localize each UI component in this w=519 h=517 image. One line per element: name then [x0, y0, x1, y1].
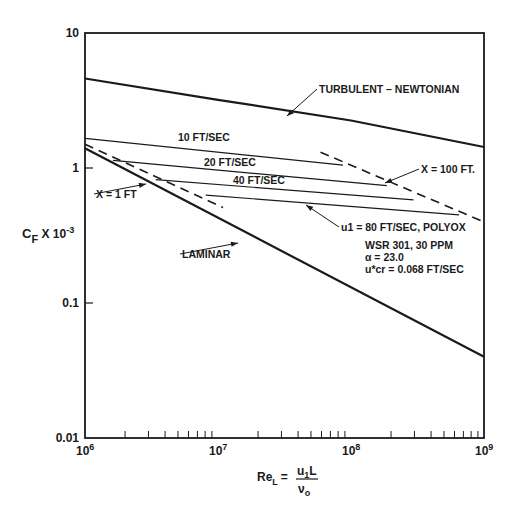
annotation-u-cr-0-068-ft-sec: u*cr = 0.068 FT/SEC [365, 263, 464, 275]
annotation-23-0: α = 23.0 [365, 251, 404, 263]
svg-text:u1L: u1L [297, 464, 317, 480]
y-tick-label: 10 [66, 26, 80, 40]
annotation-wsr-301-30-ppm: WSR 301, 30 PPM [365, 239, 453, 251]
y-tick-label: 1 [72, 161, 79, 175]
arrowhead-icon [231, 242, 238, 247]
series-layer [85, 79, 484, 357]
arrowhead-icon [139, 183, 146, 188]
y-tick-label: 0.01 [56, 431, 80, 445]
annotation-40-ft-sec: 40 FT/SEC [233, 174, 285, 186]
x-axis-title: ReL= u1L νo [257, 464, 318, 498]
series-u1-80-ft-sec-polyox [206, 195, 459, 215]
annotation-layer: TURBULENT – NEWTONIAN10 FT/SEC20 FT/SEC4… [94, 83, 475, 275]
annotation-u1-80-ft-sec-polyox: u1 = 80 FT/SEC, POLYOX [341, 221, 466, 233]
x-axis-ticks: 106107108109 [76, 431, 493, 458]
x-tick-label: 109 [475, 442, 493, 458]
annotation-10-ft-sec: 10 FT/SEC [178, 131, 230, 143]
svg-text:νo: νo [298, 482, 311, 498]
svg-text:ReL=: ReL= [257, 470, 288, 487]
annotation-turbulent-newtonian: TURBULENT – NEWTONIAN [319, 83, 459, 95]
arrowhead-icon [306, 205, 313, 211]
x-tick-label: 108 [342, 442, 360, 458]
annotation-x-100-ft: X = 100 FT. [421, 163, 475, 175]
y-tick-label: 0.1 [62, 296, 79, 310]
y-axis-title: CF X 10-3 [22, 225, 74, 245]
skin-friction-chart: 106107108109 1010.10.01 TURBULENT – NEWT… [0, 0, 519, 517]
x-tick-label: 107 [209, 442, 227, 458]
annotation-20-ft-sec: 20 FT/SEC [204, 156, 256, 168]
annotation-laminar: LAMINAR [182, 248, 231, 260]
arrowhead-icon [385, 178, 392, 183]
